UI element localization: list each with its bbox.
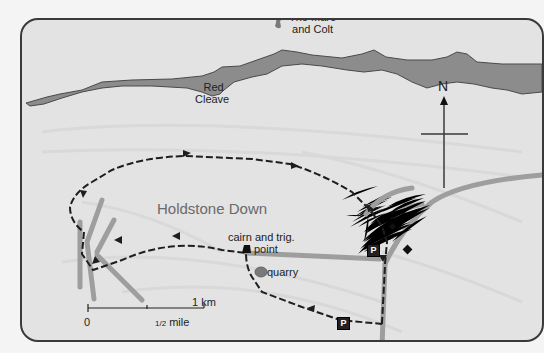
label-line: Red — [195, 81, 229, 93]
arrow-icon — [114, 236, 122, 244]
scale-unit: mile — [169, 316, 189, 328]
label-mare-and-colt: The Mare and Colt — [289, 18, 336, 35]
north-arrow-head-icon — [440, 96, 448, 105]
scale-label-zero: 0 — [84, 316, 90, 328]
ridge-red-cleave — [26, 50, 542, 106]
label-cairn-and-trig-point: cairn and trig. point — [228, 231, 295, 255]
road-west-3 — [97, 220, 114, 252]
north-letter: N — [438, 80, 448, 92]
label-red-cleave: Red Cleave — [195, 81, 229, 105]
arrow-icon — [80, 190, 87, 198]
label-line: cairn and trig. — [228, 231, 295, 243]
label-quarry: quarry — [267, 266, 298, 278]
road-west-4 — [97, 255, 142, 300]
road-near-loop — [346, 215, 364, 216]
parking-icon: P — [337, 317, 350, 330]
terrain-texture — [42, 125, 522, 332]
mare-and-colt-rock — [274, 20, 283, 28]
label-line: Cleave — [195, 93, 229, 105]
road-arc-right — [342, 186, 378, 200]
viewpoint-diamond-large-icon — [403, 245, 413, 255]
map-frame: P P The Mare and Colt Red Cleave Holdsto… — [20, 18, 544, 342]
scale-fraction: 1/2 — [155, 319, 166, 328]
arrow-icon — [291, 162, 299, 169]
scale-bar — [88, 304, 204, 312]
parking-icon: P — [367, 244, 380, 257]
label-line: point — [228, 243, 295, 255]
quarry-icon — [255, 267, 267, 277]
label-line: and Colt — [289, 23, 336, 35]
label-holdstone-down: Holdstone Down — [157, 203, 267, 215]
scale-label-half-mile: 1/2 mile — [155, 316, 189, 330]
arrow-icon — [172, 232, 180, 240]
scale-label-km: 1 km — [192, 296, 216, 308]
map-canvas — [22, 20, 542, 340]
